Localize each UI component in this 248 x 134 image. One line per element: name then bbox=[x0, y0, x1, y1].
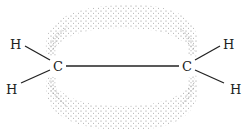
atom-h-bottom-right: H bbox=[230, 82, 241, 97]
atom-c-right: C bbox=[182, 59, 192, 74]
bond-c-h-top-right bbox=[195, 46, 220, 60]
bond-c-h-bottom-right bbox=[195, 70, 224, 83]
bond-c-h-bottom-left bbox=[21, 70, 50, 83]
atom-h-top-left: H bbox=[10, 37, 21, 52]
atom-c-left: C bbox=[53, 59, 63, 74]
ethylene-diagram: C C H H H H bbox=[0, 0, 248, 134]
atom-h-top-right: H bbox=[223, 37, 234, 52]
pi-cloud-upper-lobe bbox=[46, 5, 198, 58]
atom-h-bottom-left: H bbox=[6, 82, 17, 97]
pi-cloud-lower-lobe bbox=[46, 74, 198, 130]
